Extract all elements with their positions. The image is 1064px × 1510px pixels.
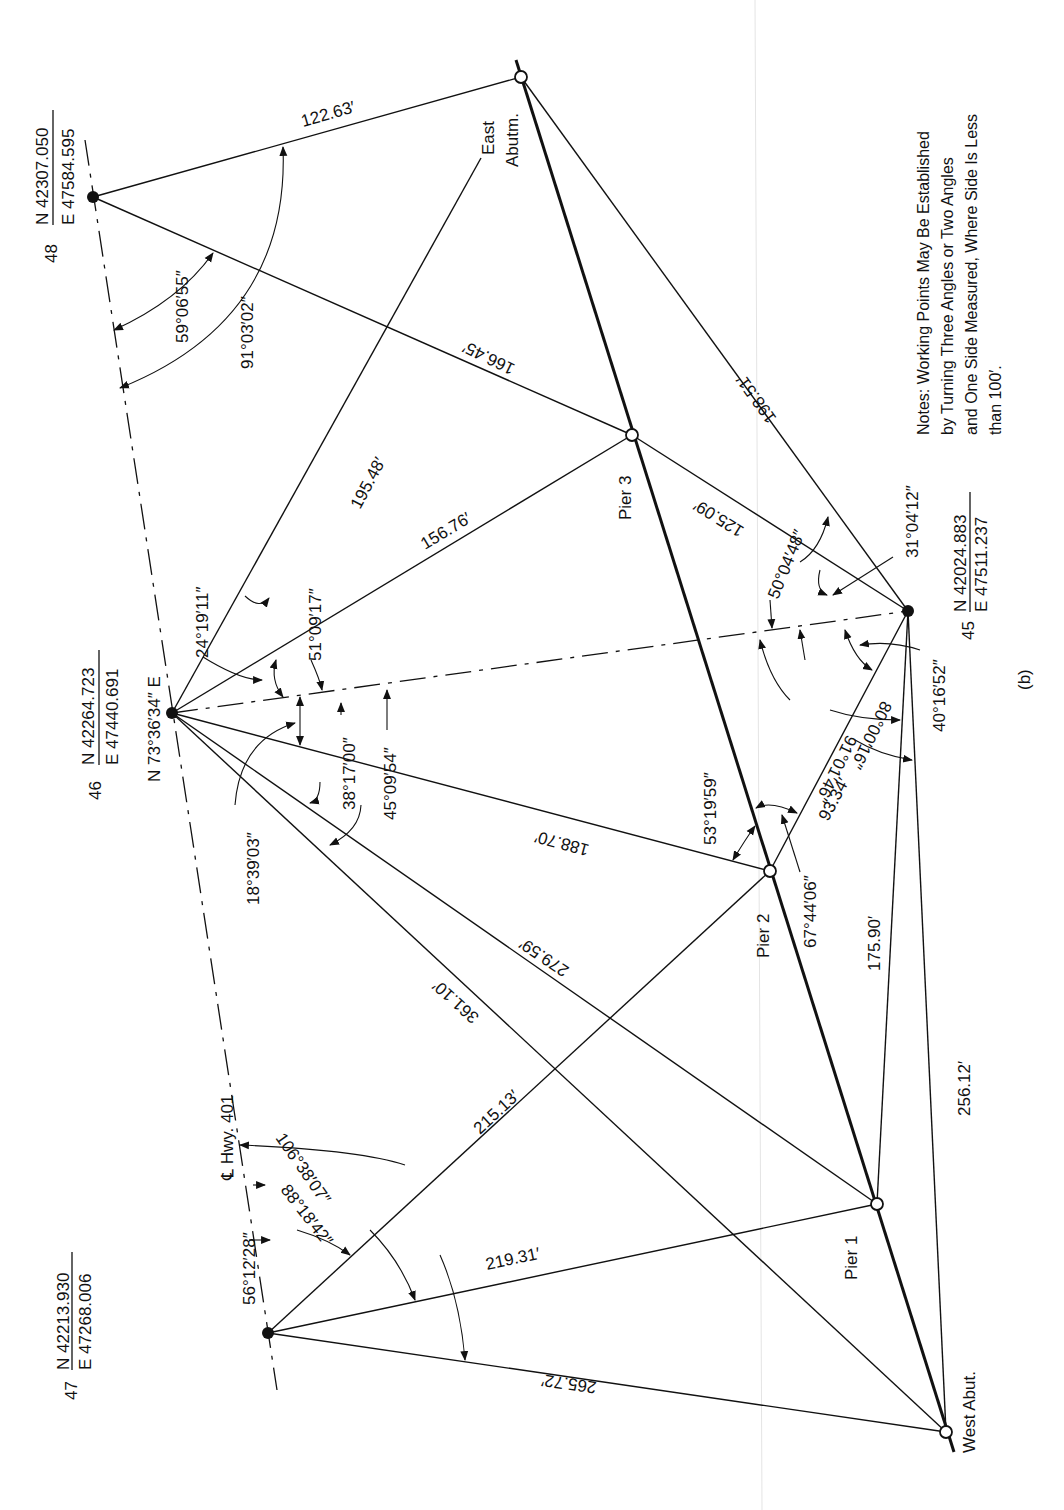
station-45-easting: E 47511.237 <box>972 517 991 612</box>
angle-pier2-a2: 67°44′06″ <box>801 875 820 948</box>
distance-45-pier1: 175.90′ <box>865 916 884 971</box>
station-48-northing: N 42307.050 <box>33 128 52 225</box>
note-line-2: by Turning Three Angles or Two Angles <box>939 157 956 435</box>
east-abutment-label-line1: East <box>479 121 498 155</box>
angle-45-a4: 80°00′16″ <box>847 698 896 772</box>
station-45-northing: N 42024.883 <box>951 515 970 612</box>
station-46-northing: N 42264.723 <box>79 668 98 765</box>
angle-pier2-a1: 53°19′59″ <box>701 772 720 845</box>
highway-label: ℄ Hwy. 401 <box>218 1095 237 1181</box>
pier-1-point <box>871 1198 883 1210</box>
bridge-layout-triangulation-diagram: 48 N 42307.050 E 47584.595 46 N 42264.72… <box>0 0 1064 1510</box>
lines-from-station-48 <box>93 77 632 435</box>
east-abutment-point <box>515 71 527 83</box>
highway-centerline <box>85 140 908 1390</box>
station-48-id: 48 <box>42 244 61 263</box>
highway-bearing: N 73°36′34″ E <box>145 676 164 782</box>
station-46-label: 46 N 42264.723 E 47440.691 N 73°36′34″ E <box>79 650 164 800</box>
distance-46-west-abut: 361.10′ <box>429 976 483 1027</box>
lines-from-station-47 <box>268 871 946 1432</box>
figure-label: (b) <box>1015 669 1034 690</box>
station-46-id: 46 <box>86 781 105 800</box>
angle-46-a1: 24°19′11″ <box>193 587 212 658</box>
angle-48-a2: 91°03′02″ <box>238 296 257 369</box>
angle-48-a1: 59°06′55″ <box>173 270 192 343</box>
bridge-centerline <box>516 60 954 1452</box>
west-abutment-label: West Abut. <box>960 1371 979 1453</box>
angle-45-a3: 40°16′52″ <box>930 659 949 732</box>
angle-45-a1: 31°04′12″ <box>903 485 922 558</box>
station-45-point <box>902 605 914 617</box>
page-crease <box>755 0 762 1510</box>
angle-46-a4: 38°17′00″ <box>340 737 359 810</box>
pier-2-label: Pier 2 <box>754 914 773 958</box>
angle-46-a5: 45°09′54″ <box>381 747 400 820</box>
angle-46-a3: 18°39′03″ <box>244 832 263 905</box>
station-47-label: 47 N 42213.930 E 47268.006 ℄ Hwy. 401 <box>54 1095 237 1400</box>
working-point-labels: East Abutm. Pier 3 Pier 2 Pier 1 West Ab… <box>479 113 979 1453</box>
distance-45-west-abut: 256.12′ <box>955 1061 974 1116</box>
station-45-id: 45 <box>959 621 978 640</box>
angle-labels: 59°06′55″ 91°03′02″ 24°19′11″ 51°09′17″ … <box>173 270 949 1305</box>
notes-block: Notes: Working Points May Be Established… <box>915 114 1004 435</box>
pier-2-point <box>764 865 776 877</box>
station-48-label: 48 N 42307.050 E 47584.595 <box>33 110 78 263</box>
station-47-northing: N 42213.930 <box>54 1273 73 1370</box>
west-abutment-point <box>940 1426 952 1438</box>
distance-47-pier2: 215.13′ <box>470 1086 523 1138</box>
pier-1-label: Pier 1 <box>842 1236 861 1280</box>
station-47-id: 47 <box>62 1381 81 1400</box>
station-46-point <box>166 707 178 719</box>
angle-47-a1: 56°12′28″ <box>240 1232 259 1305</box>
station-46-easting: E 47440.691 <box>103 669 122 765</box>
east-abutment-label-line2: Abutm. <box>503 113 522 167</box>
angle-46-a2: 51°09′17″ <box>306 588 325 661</box>
station-45-label: 45 N 42024.883 E 47511.237 <box>951 492 991 640</box>
distance-46-pier2: 188.70′ <box>533 827 591 860</box>
distance-47-west-abut: 265.72′ <box>540 1370 597 1396</box>
note-line-3: and One Side Measured, Where Side Is Les… <box>963 114 980 435</box>
station-47-point <box>262 1327 274 1339</box>
station-48-point <box>87 191 99 203</box>
pier-3-point <box>626 429 638 441</box>
distance-46-east-abut: 195.48′ <box>347 454 390 512</box>
distance-46-pier1: 279.59′ <box>516 934 572 981</box>
station-47-easting: E 47268.006 <box>76 1274 95 1370</box>
station-48-easting: E 47584.595 <box>59 129 78 225</box>
pier-3-label: Pier 3 <box>616 476 635 520</box>
note-line-4: than 100′. <box>987 365 1004 435</box>
angle-45-a2: 50°04′48″ <box>764 527 809 602</box>
note-line-1: Notes: Working Points May Be Established <box>915 131 932 435</box>
distance-47-pier1: 219.31′ <box>484 1244 542 1274</box>
